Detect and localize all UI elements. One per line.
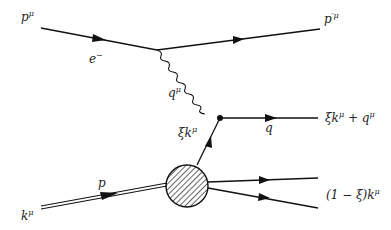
label-outgoing-quark: ξkμ + qμ <box>325 110 375 125</box>
incoming-electron-line <box>41 28 157 50</box>
arrow-icon <box>258 193 270 201</box>
parton-line <box>197 118 220 165</box>
remnant-line-lower <box>208 188 318 208</box>
label-incoming-electron: pμ <box>21 9 34 24</box>
proton-blob <box>166 165 208 207</box>
label-photon: qμ <box>168 85 181 100</box>
arrow-icon <box>205 136 212 148</box>
arrow-icon <box>259 176 270 184</box>
label-quark: q <box>265 121 273 135</box>
label-proton: p <box>98 176 106 190</box>
label-parton: ξkμ <box>178 125 197 140</box>
arrow-icon <box>233 36 244 44</box>
arrow-icon <box>92 34 106 42</box>
label-remnant: (1 − ξ)kμ <box>326 187 380 202</box>
label-electron: e− <box>89 51 103 66</box>
remnant-line-upper <box>208 176 318 184</box>
outgoing-electron-line <box>157 29 320 50</box>
label-incoming-proton: kμ <box>21 208 33 223</box>
label-outgoing-electron: p′μ <box>324 11 339 26</box>
feynman-diagram: pμ e− p′μ qμ ξkμ q ξkμ + qμ p kμ (1 − ξ)… <box>0 0 391 230</box>
photon-line <box>157 50 205 114</box>
arrow-icon <box>100 192 118 200</box>
